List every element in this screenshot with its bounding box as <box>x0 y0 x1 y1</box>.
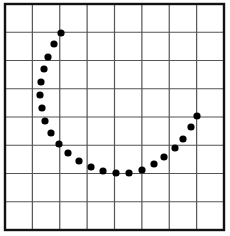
path-dot <box>138 166 145 173</box>
path-dot <box>193 112 200 119</box>
path-dot <box>36 91 43 98</box>
path-dot <box>55 140 62 147</box>
path-dot <box>41 117 48 124</box>
path-dot <box>38 104 45 111</box>
path-dot <box>99 167 106 174</box>
grid-lines <box>5 4 224 230</box>
path-dot <box>125 169 132 176</box>
path-dot <box>37 78 44 85</box>
path-dot <box>187 123 194 130</box>
path-dot <box>44 53 51 60</box>
path-dot <box>150 160 157 167</box>
path-dot <box>171 144 178 151</box>
dot-path-grid-figure <box>0 0 230 236</box>
path-dot <box>87 163 94 170</box>
path-dot <box>160 153 167 160</box>
path-dot <box>47 129 54 136</box>
path-dot <box>57 29 64 36</box>
dot-path <box>36 29 200 176</box>
path-dot <box>40 65 47 72</box>
path-dot <box>75 157 82 164</box>
path-dot <box>112 169 119 176</box>
path-dot <box>50 40 57 47</box>
path-dot <box>64 149 71 156</box>
path-dot <box>179 135 186 142</box>
